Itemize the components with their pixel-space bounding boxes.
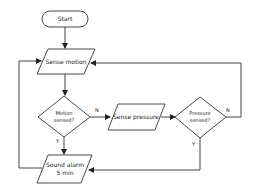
motion-yes-label: Y <box>55 138 60 144</box>
sound-alarm-node: Sound alarm 5 min <box>37 155 92 183</box>
pressure-yes-label: Y <box>191 141 196 147</box>
pressure-sensed-decision: Pressure sensed? <box>175 97 226 138</box>
sense-motion-label: Sense motion <box>45 58 86 65</box>
sense-pressure-label: Sense pressure <box>113 113 159 121</box>
edge-alarm-loop <box>19 61 42 168</box>
sense-motion-node: Sense motion <box>37 49 95 74</box>
motion-no-label: N <box>95 107 99 113</box>
pressure-decision-line2: sensed? <box>190 117 211 123</box>
edge-pressure-yes <box>89 138 200 170</box>
motion-decision-line1: Motion <box>56 110 73 116</box>
edge-pressure-no <box>91 63 241 117</box>
start-label: Start <box>58 15 73 22</box>
sense-pressure-node: Sense pressure <box>108 104 165 130</box>
start-node: Start <box>42 11 88 27</box>
pressure-decision-line1: Pressure <box>189 110 210 116</box>
connectors <box>19 27 241 170</box>
pressure-no-label: N <box>226 107 230 113</box>
sound-alarm-line1: Sound alarm <box>46 161 84 168</box>
motion-sensed-decision: Motion sensed? <box>38 96 90 137</box>
flowchart: Start Sense motion Motion sensed? N Y Se… <box>0 0 255 193</box>
motion-decision-line2: sensed? <box>54 117 75 123</box>
sound-alarm-line2: 5 min <box>56 169 73 176</box>
